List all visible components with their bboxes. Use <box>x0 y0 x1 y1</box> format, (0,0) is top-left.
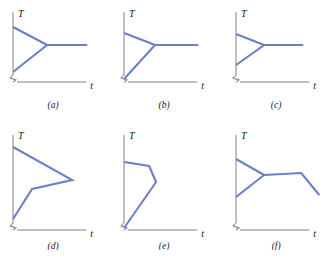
panel-d-ylabel: T <box>18 130 25 141</box>
panel-c-curve <box>236 34 264 65</box>
panel-e-curve <box>124 162 156 228</box>
panel-a-curve <box>13 27 47 72</box>
panel-d-curve <box>13 147 72 219</box>
panel-d-axis-break-icon <box>10 223 16 230</box>
panel-b-plot: T t (b) <box>111 0 222 125</box>
panel-f: T t (f) <box>223 125 334 250</box>
panel-c: T t (c) <box>223 0 334 125</box>
panel-f-axis-break-icon <box>233 223 239 230</box>
panel-a-label: (a) <box>48 100 59 111</box>
panel-f-curve-tail <box>264 173 319 195</box>
panel-a-xlabel: t <box>90 80 93 91</box>
panel-a-ylabel: T <box>18 8 25 19</box>
panel-a: T t (a) <box>0 0 111 125</box>
panel-f-plot: T t (f) <box>223 125 334 250</box>
panel-a-plot: T t (a) <box>0 0 111 125</box>
panel-f-label: (f) <box>271 241 280 250</box>
panel-grid: T t (a) T t (b) <box>0 0 334 250</box>
panel-e: T t (e) <box>111 125 222 250</box>
panel-c-label: (c) <box>271 100 282 111</box>
panel-c-xlabel: t <box>313 80 316 91</box>
panel-e-label: (e) <box>159 241 170 250</box>
figure-container: T t (a) T t (b) <box>0 0 334 274</box>
panel-c-ylabel: T <box>241 8 248 19</box>
panel-b-label: (b) <box>159 100 170 111</box>
panel-b: T t (b) <box>111 0 222 125</box>
panel-e-ylabel: T <box>129 130 136 141</box>
panel-f-ylabel: T <box>241 130 248 141</box>
panel-e-xlabel: t <box>202 228 205 239</box>
panel-a-axis-break-icon <box>10 75 16 82</box>
panel-b-ylabel: T <box>129 8 136 19</box>
panel-d-plot: T t (d) <box>0 125 111 250</box>
panel-b-xlabel: t <box>202 80 205 91</box>
panel-c-axis-break-icon <box>233 75 239 82</box>
panel-f-xlabel: t <box>313 228 316 239</box>
panel-d-xlabel: t <box>90 228 93 239</box>
panel-d: T t (d) <box>0 125 111 250</box>
panel-e-plot: T t (e) <box>111 125 222 250</box>
panel-b-curve <box>124 33 155 79</box>
panel-d-label: (d) <box>48 241 59 250</box>
panel-c-plot: T t (c) <box>223 0 334 125</box>
panel-f-curve <box>236 159 264 197</box>
